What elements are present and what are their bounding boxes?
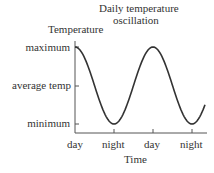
- y-ticks: [75, 47, 79, 124]
- x-axis-label: Time: [124, 154, 147, 165]
- x-ticks: [114, 129, 192, 133]
- y-tick-label-maximum: maximum: [25, 42, 70, 53]
- y-tick-label-average: average temp: [12, 80, 71, 91]
- x-tick-label-day-2: day: [144, 139, 160, 150]
- x-tick-label-night-2: night: [180, 139, 203, 150]
- temperature-curve: [75, 47, 205, 124]
- y-axis-label: Temperature: [48, 24, 103, 35]
- x-tick-label-day-1: day: [67, 139, 83, 150]
- x-tick-label-night-1: night: [102, 139, 125, 150]
- y-tick-label-minimum: minimum: [27, 118, 70, 129]
- chart-title-line2: oscillation: [113, 15, 159, 26]
- chart-title-line1: Daily temperature: [99, 3, 179, 14]
